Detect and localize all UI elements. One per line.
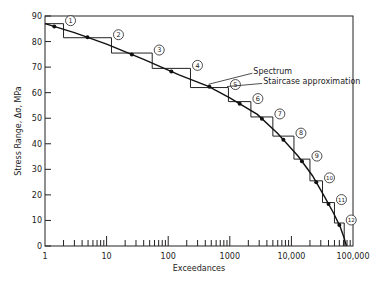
y-tick-label: 70 <box>32 63 42 72</box>
y-tick-label: 50 <box>32 114 42 123</box>
block-label-number: 1 <box>68 17 72 25</box>
block-label-number: 11 <box>338 197 345 203</box>
midpoint-dot <box>52 24 56 28</box>
block-labels: 123456789101112 <box>66 16 357 225</box>
plot-border <box>45 16 353 246</box>
x-axis-label: Exceedances <box>173 264 225 273</box>
annotation-spectrum: Spectrum <box>253 67 292 76</box>
x-tick-label: 1000 <box>220 252 240 261</box>
annotation-staircase: Staircase approximation <box>263 77 360 86</box>
plot-frame <box>45 16 353 246</box>
midpoint-dot <box>314 180 318 184</box>
block-label-number: 5 <box>233 81 237 89</box>
block-label-number: 4 <box>195 62 199 70</box>
x-tick-label: 10,000 <box>277 252 305 261</box>
midpoint-dot <box>260 117 264 121</box>
block-label-number: 12 <box>348 217 355 223</box>
stress-spectrum-chart: 0102030405060708090 110100100010,000100,… <box>0 0 384 281</box>
y-tick-label: 40 <box>32 140 42 149</box>
midpoint-dot <box>337 223 341 227</box>
block-label-number: 8 <box>299 129 303 137</box>
midpoint-dot <box>326 202 330 206</box>
x-tick-label: 100,000 <box>336 252 369 261</box>
x-tick-label: 1 <box>42 252 47 261</box>
x-axis: 110100100010,000100,000 <box>42 236 369 261</box>
midpoint-dot <box>300 159 304 163</box>
midpoint-dot <box>207 85 211 89</box>
midpoint-dot <box>169 69 173 73</box>
y-axis-label: Stress Range, Δσ, MPa <box>14 86 23 176</box>
midpoint-dot <box>86 35 90 39</box>
block-label-number: 10 <box>326 175 333 181</box>
midpoint-dot <box>238 102 242 106</box>
y-tick-label: 0 <box>37 242 42 251</box>
y-tick-label: 30 <box>32 165 42 174</box>
y-tick-label: 60 <box>32 89 42 98</box>
midpoint-dot <box>281 138 285 142</box>
block-label-number: 6 <box>256 95 260 103</box>
block-label-number: 7 <box>278 110 282 118</box>
block-label-number: 2 <box>116 31 120 39</box>
block-label-number: 9 <box>315 152 319 160</box>
x-tick-label: 100 <box>161 252 176 261</box>
y-tick-label: 20 <box>32 191 42 200</box>
y-tick-label: 80 <box>32 38 42 47</box>
midpoint-dot <box>130 53 134 57</box>
block-label-number: 3 <box>157 46 161 54</box>
y-tick-label: 90 <box>32 12 42 21</box>
y-tick-label: 10 <box>32 216 42 225</box>
x-tick-label: 10 <box>102 252 112 261</box>
y-axis: 0102030405060708090 <box>32 12 51 251</box>
